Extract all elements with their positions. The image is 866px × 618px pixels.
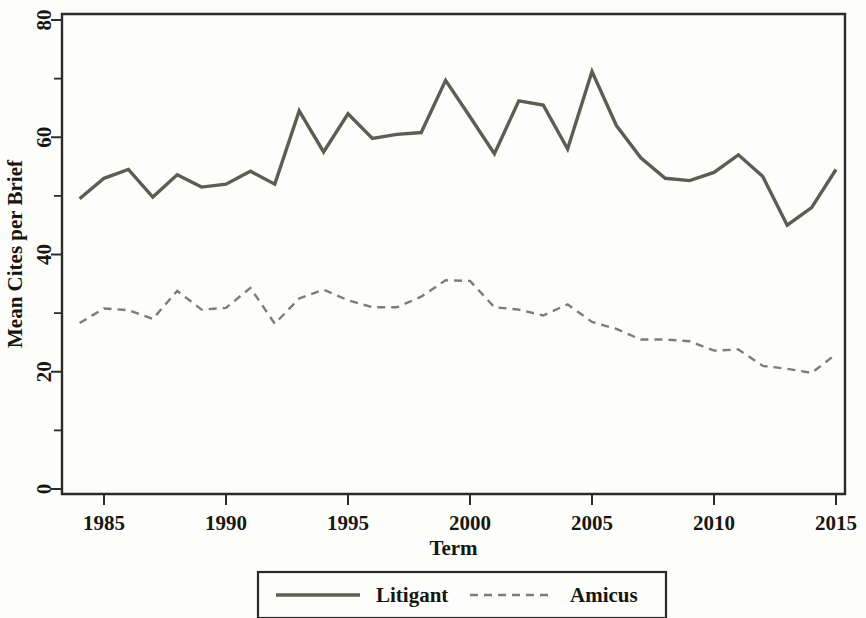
x-axis-tick-label: 2005	[571, 511, 613, 535]
series-line-amicus	[80, 280, 836, 373]
x-axis-tick-label: 1995	[327, 511, 369, 535]
y-axis-tick-label: 20	[32, 361, 56, 382]
y-axis-tick-label: 60	[32, 127, 56, 148]
x-axis-tick-label: 1985	[83, 511, 125, 535]
x-axis-tick-label: 2010	[693, 511, 735, 535]
x-axis-title: Term	[429, 536, 478, 560]
x-axis-tick-label: 1990	[205, 511, 247, 535]
series-line-litigant	[80, 72, 836, 226]
line-chart-svg: 0204060801985199019952000200520102015Ter…	[0, 0, 866, 618]
y-axis-title: Mean Cites per Brief	[3, 159, 27, 348]
plot-frame	[62, 14, 845, 494]
chart-figure: 0204060801985199019952000200520102015Ter…	[0, 0, 866, 618]
x-axis-tick-label: 2015	[815, 511, 857, 535]
chart-legend: LitigantAmicus	[258, 572, 666, 618]
y-axis-tick-label: 80	[32, 10, 56, 31]
y-axis-tick-label: 40	[32, 244, 56, 265]
y-axis-tick-label: 0	[32, 484, 56, 495]
legend-label-litigant: Litigant	[376, 583, 448, 607]
x-axis-tick-label: 2000	[449, 511, 491, 535]
legend-label-amicus: Amicus	[570, 583, 638, 607]
